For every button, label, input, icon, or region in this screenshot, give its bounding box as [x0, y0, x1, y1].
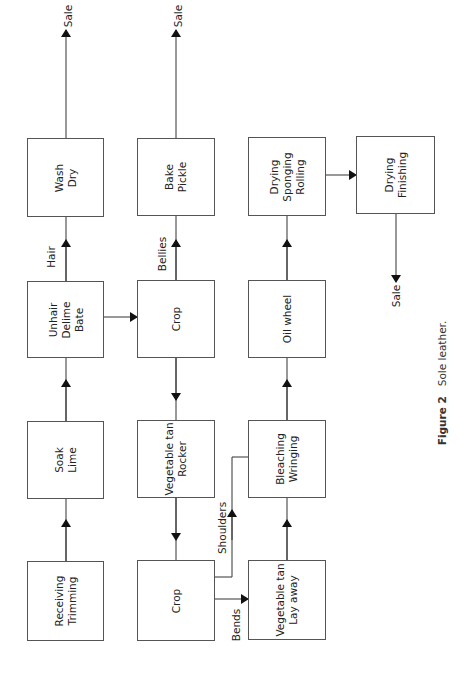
figure-number: Figure 2 [436, 396, 448, 445]
label-sale: Sale [62, 5, 74, 27]
box-drying-finishing: Drying Finishing [356, 136, 435, 214]
figure-caption: Figure 2Sole leather. [436, 321, 448, 446]
box-label: Bleaching Wringing [274, 433, 300, 485]
box-label: Drying Sponging Rolling [268, 152, 307, 201]
box-label: Vegetable tan Lay away [274, 563, 300, 636]
box-label: Soak Lime [53, 447, 79, 473]
box-label: Crop [170, 307, 183, 332]
box-label: Bake Pickle [163, 162, 189, 192]
label-sale: Sale [172, 5, 184, 27]
label-shoulders: Shoulders [216, 502, 228, 554]
box-label: Wash Dry [53, 163, 79, 191]
label-sale: Sale [390, 285, 402, 307]
sole-leather-flowchart: Wash Dry Unhair Delime Bate Soak Lime Re… [0, 0, 464, 677]
box-label: Receiving Trimming [53, 576, 79, 627]
box-oil-wheel: Oil wheel [248, 280, 326, 358]
box-vegetable-tan-rocker: Vegetable tan Rocker [137, 420, 215, 498]
box-label: Drying Finishing [383, 152, 409, 198]
box-bake-pickle: Bake Pickle [137, 138, 215, 216]
box-label: Vegetable tan Rocker [163, 422, 189, 495]
box-bleaching-wringing: Bleaching Wringing [248, 420, 326, 498]
figure-title: Sole leather. [436, 321, 448, 387]
box-label: Oil wheel [281, 295, 294, 344]
label-bellies: Bellies [156, 237, 168, 271]
box-wash-dry: Wash Dry [27, 138, 104, 217]
box-drying-sponging-rolling: Drying Sponging Rolling [248, 137, 326, 216]
box-receiving-trimming: Receiving Trimming [27, 561, 104, 641]
box-label: Unhair Delime Bate [46, 301, 85, 338]
box-crop-upper: Crop [137, 280, 215, 358]
label-bends: Bends [230, 609, 242, 641]
box-label: Crop [170, 588, 183, 613]
box-soak-lime: Soak Lime [27, 421, 104, 499]
box-crop-lower: Crop [137, 560, 215, 641]
box-vegetable-tan-lay-away: Vegetable tan Lay away [248, 560, 326, 640]
label-hair: Hair [45, 246, 57, 268]
box-unhair-delime-bate: Unhair Delime Bate [27, 281, 104, 358]
